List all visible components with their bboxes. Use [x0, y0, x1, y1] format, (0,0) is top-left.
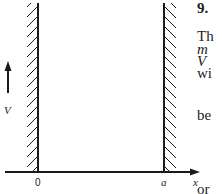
- potential-well-diagram: [0, 0, 222, 194]
- text-fragment: be: [197, 108, 211, 123]
- potential-arrowhead: [5, 61, 12, 71]
- x-axis-arrowhead: [190, 169, 200, 176]
- problem-number: 9.: [197, 1, 208, 16]
- wall-position-label: a: [161, 177, 167, 188]
- text-fragment: or: [197, 182, 210, 194]
- text-fragment: wi: [197, 66, 212, 81]
- origin-label: 0: [35, 178, 41, 188]
- potential-label: V: [4, 105, 11, 116]
